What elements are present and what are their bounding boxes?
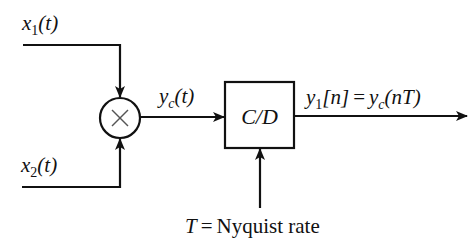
label-yc: yc(t)	[157, 84, 194, 111]
cd-converter-block: C/D	[225, 82, 294, 148]
input-x1-signal-path	[23, 45, 120, 97]
label-x1: x1(t)	[21, 11, 58, 38]
multiplier-node	[100, 98, 140, 138]
label-output: y1[n]=yc(nT)	[304, 85, 421, 112]
cd-label: C/D	[241, 104, 278, 129]
arrow-x1-to-multiplier	[23, 45, 120, 97]
label-x2: x2(t)	[20, 153, 57, 180]
block-diagram: C/D x1(t) x2(t) yc(t) y1[n]=yc(nT) T=Nyq…	[0, 0, 476, 242]
label-sampling: T=Nyquist rate	[185, 214, 320, 238]
